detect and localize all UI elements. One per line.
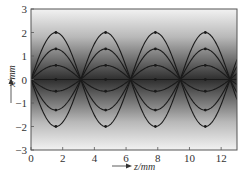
ray-marker [204, 31, 207, 34]
ray-marker [54, 48, 57, 51]
x-tick-label: 0 [28, 152, 34, 164]
y-tick-label: −2 [15, 121, 27, 133]
ray-marker [54, 78, 57, 81]
ray-marker [104, 78, 107, 81]
ray-marker [154, 109, 157, 112]
ray-marker [154, 78, 157, 81]
y-tick-label: 3 [22, 3, 28, 15]
ray-marker [204, 90, 207, 93]
ray-marker [154, 64, 157, 67]
y-tick-label: −3 [15, 144, 27, 156]
ray-marker [54, 31, 57, 34]
x-tick-label: 6 [123, 152, 129, 164]
x-tick-label: 8 [155, 152, 161, 164]
ray-marker [204, 64, 207, 67]
ray-marker [104, 90, 107, 93]
ray-marker [104, 109, 107, 112]
ray-marker [54, 90, 57, 93]
ray-marker [104, 125, 107, 128]
ray-trajectory-chart: −3−2−10123 024681012 x/mm z/mm [0, 0, 242, 181]
x-axis-label: z/mm [133, 161, 155, 172]
ray-marker [104, 48, 107, 51]
ray-marker [54, 64, 57, 67]
ray-marker [104, 64, 107, 67]
x-tick-label: 4 [92, 152, 98, 164]
ray-marker [204, 78, 207, 81]
y-tick-label: 2 [22, 27, 28, 39]
ray-marker [204, 109, 207, 112]
ray-marker [154, 125, 157, 128]
ray-marker [204, 48, 207, 51]
y-tick-label: −1 [15, 97, 27, 109]
ray-marker [104, 31, 107, 34]
x-axis-label-group: z/mm [112, 161, 155, 172]
ray-marker [204, 125, 207, 128]
ray-marker [54, 109, 57, 112]
x-tick-label: 12 [216, 152, 227, 164]
ray-marker [154, 90, 157, 93]
x-tick-label: 2 [60, 152, 66, 164]
y-tick-label: 1 [22, 50, 28, 62]
ray-marker [54, 125, 57, 128]
x-tick-label: 10 [184, 152, 196, 164]
y-axis-label: x/mm [6, 65, 17, 88]
y-tick-label: 0 [22, 74, 28, 86]
x-axis-arrowhead-icon [126, 164, 132, 169]
ray-marker [154, 48, 157, 51]
ray-marker [154, 31, 157, 34]
